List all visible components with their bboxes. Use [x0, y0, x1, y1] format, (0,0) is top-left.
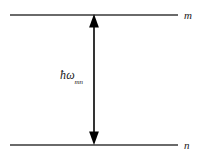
energy-level-diagram: m n ħωmn: [0, 0, 201, 161]
arrow-head-up: [89, 14, 99, 28]
arrow-head-down: [89, 132, 99, 146]
energy-level-label-m: m: [184, 10, 192, 21]
energy-level-label-n: n: [184, 140, 190, 151]
omega-subscript: mn: [74, 78, 83, 86]
transition-arrow-double-headed: [86, 14, 102, 145]
transition-energy-label: ħωmn: [60, 69, 83, 84]
